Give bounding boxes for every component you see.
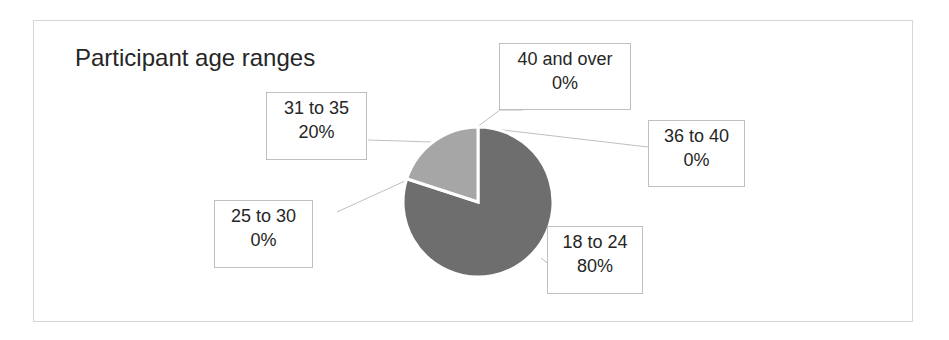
pie-chart <box>0 0 949 340</box>
data-label-40-and-over: 40 and over 0% <box>499 43 631 110</box>
leader-40-over <box>477 110 523 127</box>
leader-25-30 <box>337 181 405 212</box>
data-label-36-to-40: 36 to 40 0% <box>648 120 745 187</box>
leader-31-35 <box>368 140 433 142</box>
data-label-25-to-30: 25 to 30 0% <box>214 200 313 268</box>
data-label-18-to-24: 18 to 24 80% <box>547 226 643 294</box>
data-label-31-to-35: 31 to 35 20% <box>266 92 367 160</box>
